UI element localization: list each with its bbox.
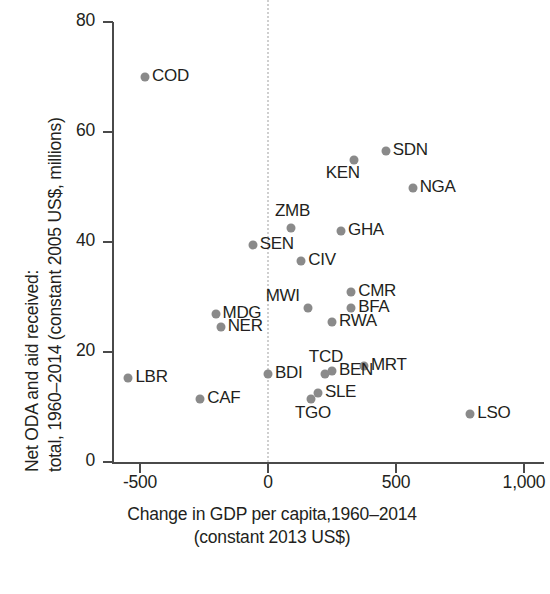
x-tick-label: 500 <box>356 472 436 493</box>
data-point <box>303 304 312 313</box>
zero-reference-line <box>267 0 269 462</box>
x-tick-label: 0 <box>228 472 308 493</box>
y-tick <box>103 21 113 23</box>
data-point-label: SDN <box>393 140 428 160</box>
data-point <box>328 317 337 326</box>
data-point-label: MWI <box>266 286 300 306</box>
caption-fragment <box>0 572 544 592</box>
data-point <box>248 240 257 249</box>
x-tick-label: -500 <box>100 472 180 493</box>
data-point <box>328 367 337 376</box>
data-point-label: LSO <box>477 403 510 423</box>
data-point-label: MRT <box>371 355 407 375</box>
y-tick <box>103 461 113 463</box>
data-point <box>264 370 273 379</box>
y-tick-label: 0 <box>55 450 95 471</box>
data-point-label: KEN <box>326 163 360 183</box>
data-point-label: LBR <box>135 367 167 387</box>
y-tick-label: 20 <box>55 340 95 361</box>
x-tick-label: 1,000 <box>484 472 550 493</box>
data-point <box>466 410 475 419</box>
data-point-label: RWA <box>339 311 377 331</box>
y-tick <box>103 131 113 133</box>
data-point <box>347 287 356 296</box>
x-axis-line <box>112 462 544 464</box>
data-point-label: GHA <box>348 220 384 240</box>
data-point <box>336 227 345 236</box>
y-tick-label: 60 <box>55 120 95 141</box>
y-tick <box>103 351 113 353</box>
data-point-label: BDI <box>275 363 302 383</box>
data-point-label: COD <box>152 66 189 86</box>
data-point <box>211 309 220 318</box>
data-point-label: BEN <box>339 360 373 380</box>
y-tick <box>103 241 113 243</box>
data-point-label: ZMB <box>275 201 310 221</box>
data-point-label: CAF <box>207 388 240 408</box>
data-point <box>124 374 133 383</box>
data-point-label: CIV <box>308 250 335 270</box>
data-point <box>196 394 205 403</box>
data-point <box>381 147 390 156</box>
y-tick-label: 40 <box>55 230 95 251</box>
data-point <box>287 224 296 233</box>
data-point <box>408 184 417 193</box>
data-point-label: SLE <box>325 382 356 402</box>
data-point <box>141 73 150 82</box>
data-point-label: NER <box>228 316 263 336</box>
data-point-label: NGA <box>420 177 456 197</box>
data-point <box>216 323 225 332</box>
data-point-label: SEN <box>260 234 294 254</box>
data-point-label: TCD <box>309 347 343 367</box>
y-tick-label: 80 <box>55 10 95 31</box>
data-point-label: TGO <box>295 403 331 423</box>
data-point <box>297 257 306 266</box>
